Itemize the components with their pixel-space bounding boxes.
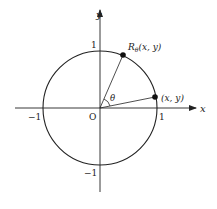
point-rotated bbox=[120, 52, 126, 58]
point-original bbox=[152, 94, 158, 100]
angle-label: θ bbox=[110, 93, 115, 103]
y-axis-label: y bbox=[95, 9, 102, 20]
tick-y-neg: −1 bbox=[84, 168, 97, 178]
rotated-suffix: (x, y) bbox=[138, 42, 161, 52]
diagram-canvas: y x O 1 −1 1 −1 θ (x, y) Rθ(x, y) bbox=[0, 0, 217, 209]
origin-label: O bbox=[89, 112, 96, 122]
tick-x-pos: 1 bbox=[159, 112, 165, 122]
point-original-label: (x, y) bbox=[161, 93, 184, 103]
x-axis-label: x bbox=[200, 103, 206, 114]
point-rotated-label: Rθ(x, y) bbox=[127, 42, 162, 53]
unit-circle-figure: y x O 1 −1 1 −1 θ (x, y) Rθ(x, y) bbox=[0, 0, 217, 209]
tick-x-neg: −1 bbox=[28, 112, 41, 122]
tick-y-pos: 1 bbox=[91, 40, 97, 50]
